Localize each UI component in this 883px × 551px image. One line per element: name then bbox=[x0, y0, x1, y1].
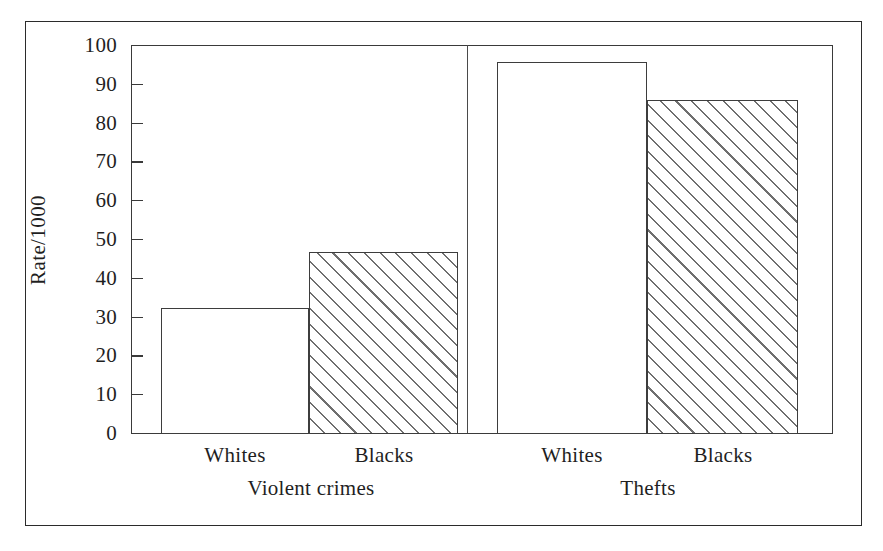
y-tick-mark-70 bbox=[132, 161, 143, 162]
x-category-label-thefts-whites: Whites bbox=[541, 443, 602, 468]
y-tick-label-10: 10 bbox=[95, 384, 117, 405]
bar-violent-crimes-blacks bbox=[309, 252, 458, 434]
x-group-label-thefts: Thefts bbox=[620, 476, 675, 501]
y-tick-label-100: 100 bbox=[85, 35, 117, 56]
bar-thefts-whites bbox=[497, 62, 647, 435]
x-group-label-violent-crimes: Violent crimes bbox=[247, 476, 374, 501]
y-tick-label-20: 20 bbox=[95, 345, 117, 366]
x-category-label-violent-blacks: Blacks bbox=[355, 443, 414, 468]
y-tick-mark-40 bbox=[132, 278, 143, 279]
y-tick-label-30: 30 bbox=[95, 306, 117, 327]
y-tick-mark-20 bbox=[132, 355, 143, 356]
x-category-label-violent-whites: Whites bbox=[204, 443, 265, 468]
y-tick-label-70: 70 bbox=[95, 151, 117, 172]
figure: 100 90 80 70 60 50 40 30 bbox=[0, 0, 883, 551]
y-tick-label-40: 40 bbox=[95, 267, 117, 288]
plot-top-border bbox=[131, 45, 833, 46]
y-tick-label-80: 80 bbox=[95, 112, 117, 133]
y-tick-mark-30 bbox=[132, 317, 143, 318]
y-tick-mark-10 bbox=[132, 394, 143, 395]
group-separator-line bbox=[467, 45, 468, 433]
y-tick-label-50: 50 bbox=[95, 229, 117, 250]
y-tick-mark-50 bbox=[132, 239, 143, 240]
y-tick-mark-60 bbox=[132, 200, 143, 201]
y-tick-label-90: 90 bbox=[95, 73, 117, 94]
plot-right-border bbox=[832, 45, 833, 434]
y-tick-mark-90 bbox=[132, 84, 143, 85]
y-axis-title: Rate/1000 bbox=[26, 195, 51, 285]
bar-violent-crimes-whites bbox=[161, 308, 309, 434]
y-tick-label-0: 0 bbox=[106, 423, 117, 444]
bar-thefts-blacks bbox=[647, 100, 798, 434]
plot-area: 100 90 80 70 60 50 40 30 bbox=[131, 45, 833, 434]
y-tick-label-60: 60 bbox=[95, 190, 117, 211]
y-tick-mark-80 bbox=[132, 123, 143, 124]
x-category-label-thefts-blacks: Blacks bbox=[694, 443, 753, 468]
